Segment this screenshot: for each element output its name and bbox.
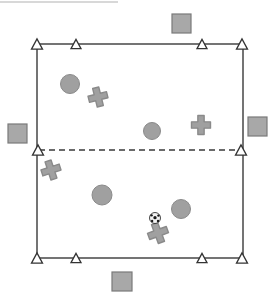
soccer-field-diagram	[0, 0, 273, 294]
cone-mid-right[interactable]	[236, 145, 247, 155]
soccer-ball-patch	[157, 214, 159, 216]
circle-player-lower-right[interactable]	[172, 200, 191, 219]
cross-player-upper-right[interactable]	[192, 116, 211, 135]
square-marker-right[interactable]	[248, 117, 267, 136]
soccer-ball-patch	[150, 214, 152, 216]
soccer-ball-patch	[157, 220, 159, 222]
square-marker-left[interactable]	[8, 124, 27, 143]
circle-player-lower-left[interactable]	[92, 185, 112, 205]
cross-player-bottom[interactable]	[145, 220, 171, 246]
diagram-canvas	[0, 0, 273, 294]
soccer-ball[interactable]	[150, 213, 161, 224]
circle-player-center[interactable]	[144, 123, 161, 140]
circle-player-upper-left[interactable]	[61, 75, 80, 94]
soccer-ball-patch	[151, 220, 153, 222]
soccer-ball-patch	[153, 216, 156, 219]
square-marker-top[interactable]	[172, 14, 191, 33]
square-marker-bottom[interactable]	[112, 272, 132, 291]
cross-player-upper-left[interactable]	[86, 85, 109, 108]
cross-player-mid-left[interactable]	[39, 158, 63, 182]
